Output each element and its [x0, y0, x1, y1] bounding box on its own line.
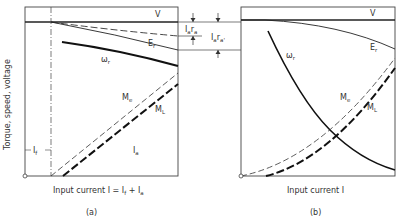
x-axis-label-a: Input current I = If + Ia — [53, 186, 144, 196]
motor-characteristics-diagram: Torque, speed, voltage V Er ωr Me ML If … — [0, 0, 400, 221]
iara-label: Iara — [185, 25, 197, 35]
ml-label-b: ML — [367, 103, 378, 113]
arrow-up-icon — [191, 36, 196, 40]
er-label-a: Er — [148, 39, 156, 49]
arrow-down-icon — [216, 18, 221, 22]
origin-marker-a — [23, 174, 27, 178]
er-solid-curve-a — [51, 22, 178, 50]
panel-b: V Er ωr Me ML Input current I (b) — [239, 7, 395, 217]
y-axis-label: Torque, speed, voltage — [3, 59, 12, 151]
caption-b: (b) — [310, 208, 321, 217]
ml-label-a: ML — [155, 105, 166, 115]
iara-prime-label: Iara' — [211, 33, 225, 43]
x-axis-label-b: Input current I — [287, 186, 344, 195]
v-label-b: V — [370, 9, 376, 18]
wr-label-a: ωr — [101, 55, 111, 65]
er-curve-a — [51, 22, 178, 36]
arrow-up-icon — [216, 50, 221, 54]
caption-a: (a) — [86, 208, 97, 217]
arrow-down-icon — [191, 18, 196, 22]
origin-marker-b — [239, 174, 243, 178]
ml-line-a — [63, 84, 178, 176]
me-line-a — [51, 73, 178, 176]
wr-label-b: ωr — [286, 51, 296, 61]
panel-a: V Er ωr Me ML If Ia Input current I = If… — [23, 7, 178, 217]
me-label-b: Me — [340, 93, 351, 103]
voltage-drop-annotations: Iara Iara' — [178, 13, 241, 58]
v-label-a: V — [155, 10, 161, 19]
me-label-a: Me — [122, 93, 133, 103]
if-label: If — [33, 146, 38, 156]
ia-label: Ia — [133, 146, 139, 156]
er-label-b: Er — [370, 43, 378, 53]
